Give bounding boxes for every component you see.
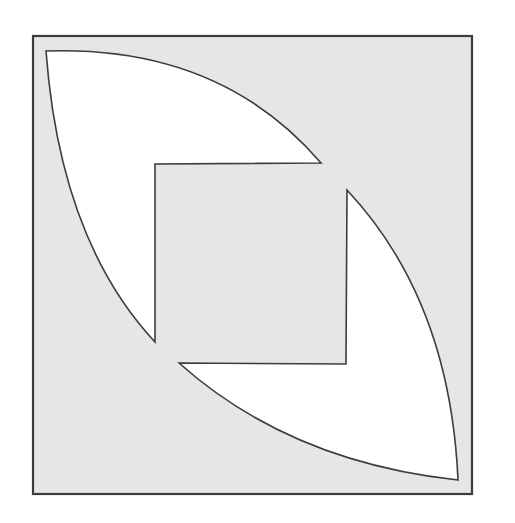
diagram-canvas <box>0 0 515 523</box>
